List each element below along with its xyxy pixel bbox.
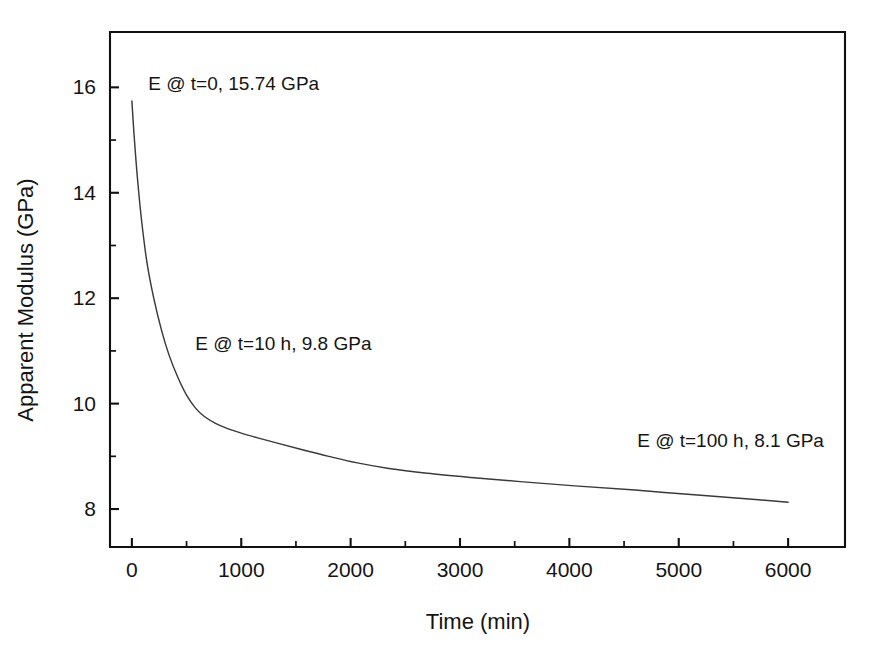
y-tick-label: 16 — [73, 75, 96, 98]
y-tick-label: 14 — [73, 181, 97, 204]
x-tick-label: 3000 — [437, 558, 484, 581]
y-tick-label: 10 — [73, 392, 96, 415]
figure-container: 0100020003000400050006000 810121416 E @ … — [0, 0, 873, 667]
annotation-label: E @ t=100 h, 8.1 GPa — [637, 430, 824, 451]
y-tick-label: 8 — [84, 497, 96, 520]
apparent-modulus-vs-time-chart: 0100020003000400050006000 810121416 E @ … — [0, 0, 873, 667]
y-axis-title: Apparent Modulus (GPa) — [13, 178, 38, 421]
annotation-label: E @ t=0, 15.74 GPa — [148, 73, 319, 94]
y-tick-label: 12 — [73, 286, 96, 309]
x-tick-label: 4000 — [546, 558, 593, 581]
x-axis-title: Time (min) — [426, 609, 530, 634]
annotation-label: E @ t=10 h, 9.8 GPa — [195, 333, 372, 354]
x-tick-label: 2000 — [327, 558, 374, 581]
x-tick-label: 0 — [126, 558, 138, 581]
x-tick-label: 5000 — [655, 558, 702, 581]
x-tick-label: 1000 — [218, 558, 265, 581]
x-tick-label: 6000 — [765, 558, 812, 581]
